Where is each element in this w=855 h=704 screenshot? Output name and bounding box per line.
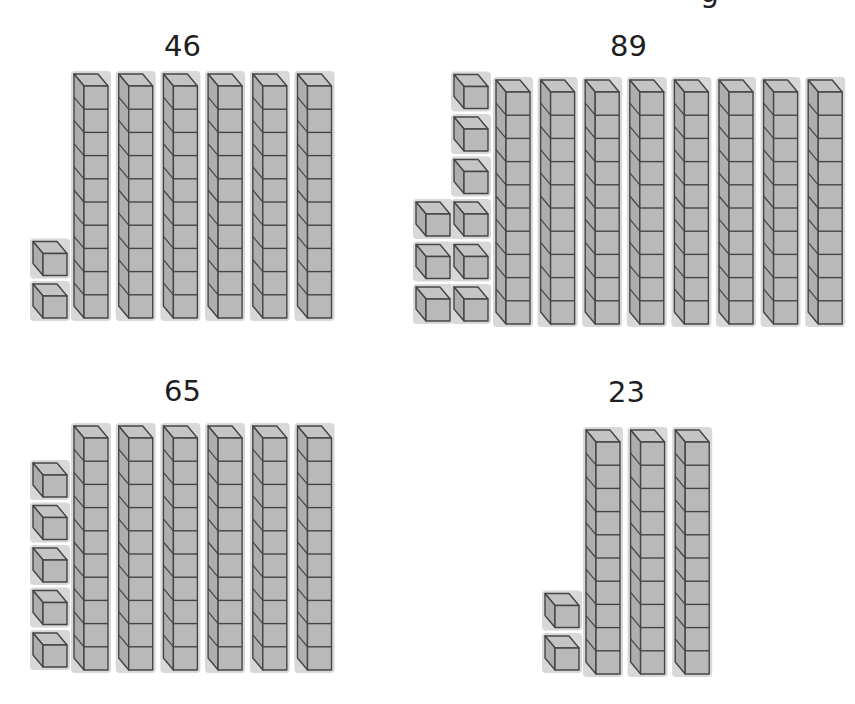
ones-cube <box>451 72 491 112</box>
tens-rod <box>160 71 200 321</box>
tens-rod <box>761 77 801 327</box>
tens-rod <box>250 71 290 321</box>
tens-rod <box>672 427 712 677</box>
tens-rod <box>295 71 335 321</box>
ones-cube <box>451 284 491 324</box>
tens-rod <box>205 423 245 673</box>
tens-rod <box>627 77 667 327</box>
ones-cube <box>30 503 70 543</box>
base-ten-blocks-diagram <box>0 0 855 704</box>
tens-rod <box>538 77 578 327</box>
ones-cube <box>413 199 453 239</box>
ones-cube <box>30 630 70 670</box>
tens-rod <box>71 71 111 321</box>
tens-rod <box>583 427 623 677</box>
ones-cube <box>451 114 491 154</box>
ones-cube <box>30 281 70 321</box>
ones-cube <box>413 284 453 324</box>
problem-2-blocks <box>413 72 845 328</box>
ones-cube <box>413 242 453 282</box>
tens-rod <box>160 423 200 673</box>
tens-rod <box>205 71 245 321</box>
ones-cube <box>451 242 491 282</box>
tens-rod <box>805 77 845 327</box>
tens-rod <box>582 77 622 327</box>
problem-1-blocks <box>30 71 335 321</box>
ones-cube <box>451 157 491 197</box>
ones-cube <box>451 199 491 239</box>
tens-rod <box>116 71 156 321</box>
tens-rod <box>671 77 711 327</box>
tens-rod <box>71 423 111 673</box>
tens-rod <box>716 77 756 327</box>
problem-4-blocks <box>542 427 712 677</box>
ones-cube <box>30 460 70 500</box>
tens-rod <box>116 423 156 673</box>
ones-cube <box>542 591 582 631</box>
tens-rod <box>628 427 668 677</box>
ones-cube <box>30 239 70 279</box>
ones-cube <box>30 545 70 585</box>
tens-rod <box>295 423 335 673</box>
ones-cube <box>30 588 70 628</box>
problem-3-blocks <box>30 423 335 673</box>
tens-rod <box>250 423 290 673</box>
ones-cube <box>542 633 582 673</box>
tens-rod <box>493 77 533 327</box>
